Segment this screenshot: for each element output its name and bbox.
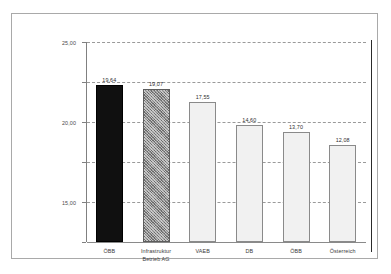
gridline bbox=[87, 242, 366, 243]
y-axis-tick-label: 15,00 bbox=[62, 200, 76, 206]
gridline bbox=[87, 202, 366, 203]
bar-value-label: 19,64 bbox=[102, 77, 116, 83]
x-axis-category-label: ÖBB bbox=[103, 248, 115, 256]
y-axis-tick-label: 25,00 bbox=[62, 40, 76, 46]
x-axis-category-label: VAEB bbox=[195, 248, 209, 256]
bar-value-label: 12,08 bbox=[336, 137, 350, 143]
y-axis-line bbox=[86, 42, 87, 242]
x-axis-category-label: Infrastruktur Betrieb AG bbox=[141, 248, 171, 263]
gridline bbox=[87, 162, 366, 163]
y-axis-tick: 5,00 bbox=[82, 202, 86, 203]
bar bbox=[236, 125, 263, 242]
bar-value-label: 13,70 bbox=[289, 124, 303, 130]
gridline bbox=[87, 82, 366, 83]
x-axis-category-label: ÖBB bbox=[290, 248, 302, 256]
chart-frame: 0,005,0010,0015,0020,0025,00 19,6419,071… bbox=[11, 13, 378, 259]
right-separator-rule bbox=[371, 40, 372, 252]
y-axis-tick-label: 20,00 bbox=[62, 120, 76, 126]
x-axis-category-label: Österreich bbox=[330, 248, 356, 256]
bar bbox=[96, 85, 123, 242]
y-axis-tick: 25,00 bbox=[82, 42, 86, 43]
bar bbox=[283, 132, 310, 242]
y-axis-tick: 15,00 bbox=[82, 122, 86, 123]
bar bbox=[329, 145, 356, 242]
plot-area: 0,005,0010,0015,0020,0025,00 19,6419,071… bbox=[86, 42, 366, 242]
bar-value-label: 19,07 bbox=[149, 81, 163, 87]
bar-value-label: 14,60 bbox=[242, 117, 256, 123]
bar-value-label: 17,55 bbox=[196, 94, 210, 100]
bar bbox=[143, 89, 170, 242]
x-axis-category-label: DB bbox=[245, 248, 253, 256]
y-axis-tick: 20,00 bbox=[82, 82, 86, 83]
gridline bbox=[87, 42, 366, 43]
y-axis-tick: 0,00 bbox=[82, 242, 86, 243]
y-axis-tick: 10,00 bbox=[82, 162, 86, 163]
gridline bbox=[87, 122, 366, 123]
chart-page: 0,005,0010,0015,0020,0025,00 19,6419,071… bbox=[0, 0, 391, 274]
bar bbox=[189, 102, 216, 242]
